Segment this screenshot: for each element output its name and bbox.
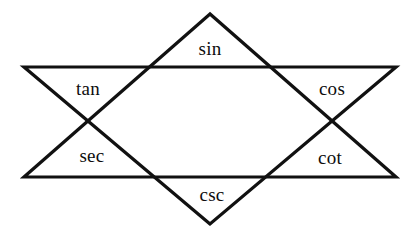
label-sec: sec <box>79 146 104 165</box>
label-csc: csc <box>199 185 224 204</box>
label-cot: cot <box>318 148 342 167</box>
label-sin: sin <box>198 39 221 58</box>
trig-hexagram-diagram: sin tan cos sec cot csc <box>0 0 420 251</box>
label-tan: tan <box>76 79 100 98</box>
label-cos: cos <box>319 79 345 98</box>
